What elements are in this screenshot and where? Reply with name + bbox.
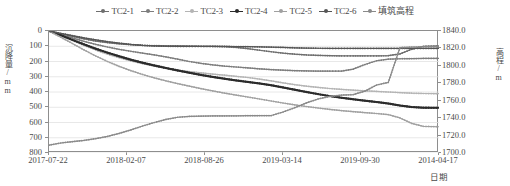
y-axis-right-title: 高程/m bbox=[493, 48, 504, 82]
legend-item-tc2-2[interactable]: TC2-2 bbox=[141, 6, 179, 16]
series-markers-tc2-5 bbox=[49, 31, 437, 128]
legend-item-tc2-6[interactable]: TC2-6 bbox=[319, 6, 357, 16]
y-axis-left-tick-label: 700 bbox=[2, 133, 42, 141]
y-axis-left-tick-label: 200 bbox=[2, 57, 42, 65]
legend-label-tc2-2: TC2-2 bbox=[156, 6, 179, 16]
legend-marker-tc2-6 bbox=[319, 7, 332, 15]
chart-container: TC2-1 TC2-2 TC2-3 TC2-4 TC2-5 TC2-6 填筑高程… bbox=[0, 0, 510, 186]
y-axis-left-tick-label: 500 bbox=[2, 102, 42, 110]
x-axis-tick-label: 2014-04-17 bbox=[398, 156, 478, 165]
y-axis-right-tick-label: 1780.0 bbox=[442, 78, 490, 86]
legend-item-tc2-4[interactable]: TC2-4 bbox=[230, 6, 268, 16]
series-line-tc2-2 bbox=[49, 31, 439, 71]
legend-marker-tc2-1 bbox=[96, 7, 109, 15]
x-axis-title: 日期 bbox=[430, 170, 448, 182]
legend-marker-fill-elevation bbox=[363, 7, 376, 15]
y-axis-left-tick-label: 0 bbox=[2, 26, 42, 34]
legend-item-tc2-3[interactable]: TC2-3 bbox=[185, 6, 223, 16]
legend-marker-tc2-5 bbox=[274, 7, 287, 15]
y-axis-left-tick-label: 400 bbox=[2, 87, 42, 95]
legend-label-fill-elevation: 填筑高程 bbox=[378, 6, 413, 16]
x-axis-tick-label: 2019-03-14 bbox=[242, 156, 322, 165]
y-axis-right-tick-label: 1820.0 bbox=[442, 43, 490, 51]
legend-label-tc2-1: TC2-1 bbox=[111, 6, 134, 16]
y-axis-right-tick-label: 1800.0 bbox=[442, 61, 490, 69]
legend-item-tc2-1[interactable]: TC2-1 bbox=[96, 6, 134, 16]
y-axis-left-tick-label: 600 bbox=[2, 118, 42, 126]
series-markers-tc2-2 bbox=[49, 31, 437, 72]
x-axis-tick-label: 2019-09-30 bbox=[320, 156, 400, 165]
y-axis-left-tick-label: 300 bbox=[2, 72, 42, 80]
legend-label-tc2-6: TC2-6 bbox=[334, 6, 357, 16]
x-axis-tick-label: 2018-02-07 bbox=[86, 156, 166, 165]
series-line-tc2-5 bbox=[49, 31, 439, 127]
plot-area bbox=[48, 30, 438, 152]
legend-marker-tc2-4 bbox=[230, 7, 243, 15]
legend-label-tc2-3: TC2-3 bbox=[200, 6, 223, 16]
y-axis-left-tick-label: 100 bbox=[2, 41, 42, 49]
legend-label-tc2-4: TC2-4 bbox=[245, 6, 268, 16]
y-axis-right-tick-label: 1760.0 bbox=[442, 96, 490, 104]
legend-item-fill-elevation[interactable]: 填筑高程 bbox=[363, 6, 413, 16]
y-axis-right-tick-label: 1740.0 bbox=[442, 113, 490, 121]
legend-marker-tc2-2 bbox=[141, 7, 154, 15]
plot-svg bbox=[49, 31, 439, 153]
legend-marker-tc2-3 bbox=[185, 7, 198, 15]
y-axis-right-tick-label: 1840.0 bbox=[442, 26, 490, 34]
legend-item-tc2-5[interactable]: TC2-5 bbox=[274, 6, 312, 16]
chart-legend: TC2-1 TC2-2 TC2-3 TC2-4 TC2-5 TC2-6 填筑高程 bbox=[0, 6, 510, 16]
y-axis-right-tick-label: 1720.0 bbox=[442, 131, 490, 139]
legend-label-tc2-5: TC2-5 bbox=[289, 6, 312, 16]
series-line-tc2-6 bbox=[49, 31, 439, 48]
x-axis-tick-label: 2018-08-26 bbox=[164, 156, 244, 165]
x-axis-tick-label: 2017-07-22 bbox=[8, 156, 88, 165]
